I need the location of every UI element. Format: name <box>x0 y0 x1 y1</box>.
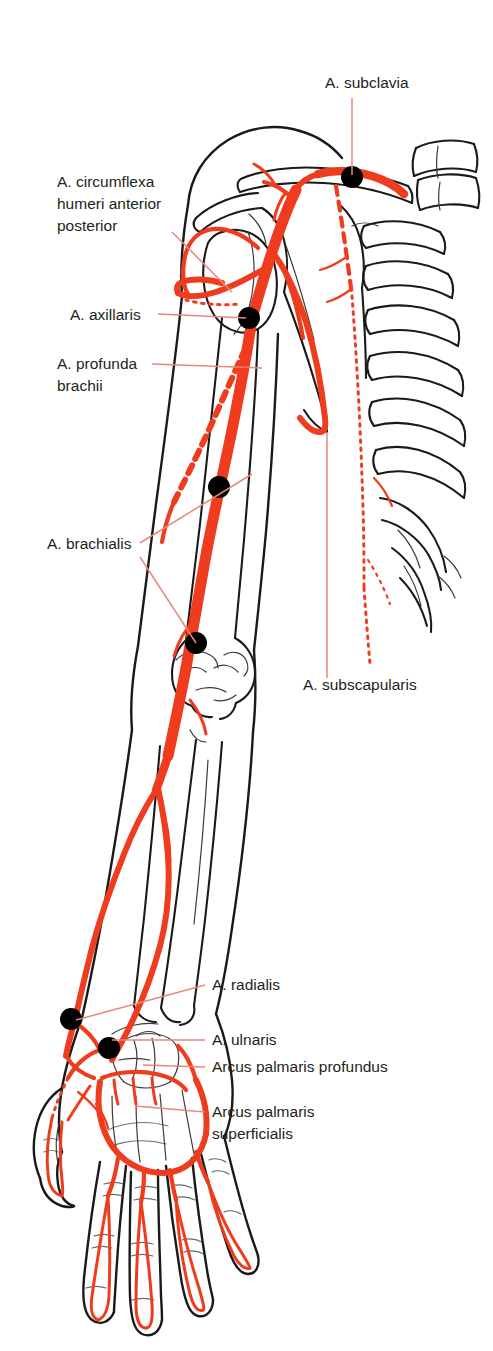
label-a-circumflexa-humeri-line1: A. circumflexa <box>57 173 155 190</box>
label-a-subscapularis: A. subscapularis <box>303 676 417 693</box>
label-a-circumflexa-humeri-line2: humeri anterior <box>57 195 161 212</box>
label-a-radialis: A. radialis <box>212 976 280 993</box>
label-arcus-palmaris-superficialis-line2: superficialis <box>212 1125 293 1142</box>
label-a-profunda-brachii-line2: brachii <box>57 377 103 394</box>
label-a-brachialis: A. brachialis <box>47 535 132 552</box>
anatomical-figure: .bone { fill:none; stroke:#1a1a1a; strok… <box>0 0 493 1351</box>
label-a-profunda-brachii-line1: A. profunda <box>57 355 138 372</box>
label-a-subclavia: A. subclavia <box>325 74 409 91</box>
label-a-ulnaris: A. ulnaris <box>212 1031 277 1048</box>
label-arcus-palmaris-profundus: Arcus palmaris profundus <box>212 1058 388 1075</box>
label-a-circumflexa-humeri-line3: posterior <box>57 217 117 234</box>
label-arcus-palmaris-superficialis-line1: Arcus palmaris <box>212 1103 315 1120</box>
label-a-axillaris: A. axillaris <box>70 306 141 323</box>
upper-limb-artery-diagram: .bone { fill:none; stroke:#1a1a1a; strok… <box>0 0 493 1351</box>
